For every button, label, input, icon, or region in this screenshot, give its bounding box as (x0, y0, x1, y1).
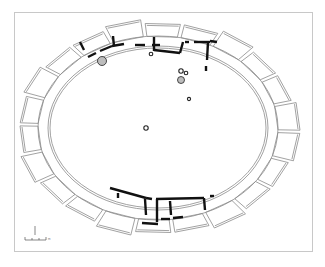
post-hole-north-icon (149, 52, 153, 56)
pit-cluster-c-icon (178, 77, 185, 84)
scale-unit-label: m (48, 237, 51, 241)
scale-bar (25, 226, 46, 240)
pit-large-northwest-icon (98, 57, 107, 66)
pit-cluster-b-icon (184, 71, 188, 75)
pit-cluster-a-icon (179, 69, 183, 73)
post-hole-east-icon (187, 97, 190, 100)
post-hole-center-icon (144, 126, 148, 130)
perimeter-cells (20, 20, 300, 235)
interior-features (98, 52, 191, 130)
enclosure-plan: m (0, 0, 325, 267)
